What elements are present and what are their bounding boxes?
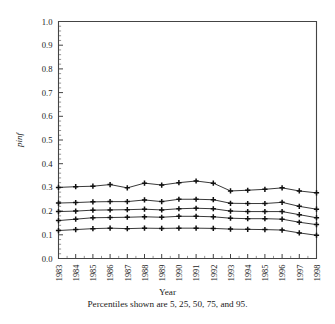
data-point-marker bbox=[159, 226, 164, 231]
data-point-marker bbox=[314, 190, 319, 195]
data-point-marker bbox=[159, 182, 164, 187]
data-point-marker bbox=[262, 209, 267, 214]
data-point-marker bbox=[159, 207, 164, 212]
data-point-marker bbox=[108, 199, 113, 204]
x-tick-label: 1984 bbox=[72, 264, 81, 282]
x-tick-label: 1987 bbox=[124, 265, 133, 282]
data-point-marker bbox=[125, 226, 130, 231]
data-point-marker bbox=[314, 207, 319, 212]
x-tick-label: 1991 bbox=[192, 265, 201, 282]
data-point-marker bbox=[90, 199, 95, 204]
data-point-marker bbox=[245, 209, 250, 214]
chart-figure: 0.00.10.20.30.40.50.60.70.80.91.0 198319… bbox=[0, 0, 335, 324]
data-point-marker bbox=[73, 217, 78, 222]
data-point-marker bbox=[194, 197, 199, 202]
y-tick-label: 1.0 bbox=[42, 17, 53, 27]
data-point-marker bbox=[159, 199, 164, 204]
data-point-marker bbox=[73, 209, 78, 214]
data-point-marker bbox=[314, 215, 319, 220]
chart-plot-area: 0.00.10.20.30.40.50.60.70.80.91.0 198319… bbox=[0, 0, 335, 324]
data-point-marker bbox=[211, 197, 216, 202]
data-point-marker bbox=[108, 207, 113, 212]
y-tick-label: 0.2 bbox=[42, 206, 53, 216]
data-point-marker bbox=[125, 215, 130, 220]
data-point-marker bbox=[73, 184, 78, 189]
data-point-marker bbox=[211, 206, 216, 211]
data-series bbox=[56, 214, 319, 227]
data-point-marker bbox=[262, 201, 267, 206]
data-point-marker bbox=[90, 184, 95, 189]
data-point-marker bbox=[56, 228, 61, 233]
data-point-marker bbox=[142, 214, 147, 219]
x-axis-ticks bbox=[59, 254, 317, 259]
y-tick-label: 0.3 bbox=[42, 182, 53, 192]
data-point-marker bbox=[211, 181, 216, 186]
data-point-marker bbox=[90, 208, 95, 213]
y-tick-label: 0.5 bbox=[42, 135, 53, 145]
data-point-marker bbox=[228, 201, 233, 206]
data-series bbox=[56, 226, 319, 238]
data-point-marker bbox=[125, 207, 130, 212]
data-point-marker bbox=[73, 227, 78, 232]
data-point-marker bbox=[56, 200, 61, 205]
data-point-marker bbox=[176, 214, 181, 219]
chart-caption: Percentiles shown are 5, 25, 50, 75, and… bbox=[0, 299, 335, 309]
data-point-marker bbox=[262, 216, 267, 221]
data-point-marker bbox=[245, 216, 250, 221]
data-point-marker bbox=[194, 178, 199, 183]
y-tick-label: 0.9 bbox=[42, 40, 53, 50]
data-point-marker bbox=[159, 215, 164, 220]
data-point-marker bbox=[73, 200, 78, 205]
data-point-marker bbox=[142, 207, 147, 212]
data-point-marker bbox=[297, 204, 302, 209]
data-point-marker bbox=[56, 218, 61, 223]
x-axis-tick-labels: 1983198419851986198719881989199019911992… bbox=[55, 264, 322, 282]
data-point-marker bbox=[297, 230, 302, 235]
x-tick-label: 1985 bbox=[89, 265, 98, 282]
x-tick-label: 1986 bbox=[106, 265, 115, 282]
y-axis-title-text: pinf bbox=[14, 132, 24, 149]
x-tick-label: 1992 bbox=[210, 265, 219, 282]
data-point-marker bbox=[314, 222, 319, 227]
data-point-marker bbox=[176, 206, 181, 211]
data-point-marker bbox=[228, 188, 233, 193]
x-axis-title: Year bbox=[0, 287, 335, 297]
data-point-marker bbox=[228, 216, 233, 221]
data-point-marker bbox=[125, 199, 130, 204]
data-point-marker bbox=[297, 212, 302, 217]
x-tick-label: 1985 bbox=[261, 265, 270, 282]
data-point-marker bbox=[142, 197, 147, 202]
data-series-group bbox=[56, 178, 319, 237]
data-point-marker bbox=[262, 227, 267, 232]
data-point-marker bbox=[211, 226, 216, 231]
data-point-marker bbox=[142, 226, 147, 231]
data-point-marker bbox=[280, 200, 285, 205]
data-point-marker bbox=[280, 185, 285, 190]
x-tick-label: 1998 bbox=[313, 265, 322, 282]
data-point-marker bbox=[56, 185, 61, 190]
data-point-marker bbox=[228, 209, 233, 214]
x-tick-label: 1988 bbox=[141, 265, 150, 282]
data-point-marker bbox=[280, 217, 285, 222]
data-point-marker bbox=[194, 226, 199, 231]
y-tick-label: 0.8 bbox=[42, 64, 53, 74]
data-point-marker bbox=[90, 226, 95, 231]
data-point-marker bbox=[297, 188, 302, 193]
data-point-marker bbox=[297, 220, 302, 225]
x-tick-label: 1983 bbox=[55, 265, 64, 282]
y-tick-label: 0.7 bbox=[42, 88, 53, 98]
y-tick-label: 0.6 bbox=[42, 111, 53, 121]
y-tick-label: 0.4 bbox=[42, 159, 53, 169]
data-point-marker bbox=[176, 180, 181, 185]
y-tick-label: 0.0 bbox=[42, 254, 53, 264]
plot-frame bbox=[59, 22, 317, 259]
x-tick-label: 1994 bbox=[244, 264, 253, 282]
data-point-marker bbox=[108, 226, 113, 231]
data-point-marker bbox=[228, 227, 233, 232]
data-point-marker bbox=[194, 214, 199, 219]
y-axis-title: pinf bbox=[14, 132, 24, 149]
data-point-marker bbox=[108, 215, 113, 220]
data-point-marker bbox=[211, 214, 216, 219]
x-tick-label: 1990 bbox=[175, 265, 184, 282]
data-point-marker bbox=[125, 185, 130, 190]
